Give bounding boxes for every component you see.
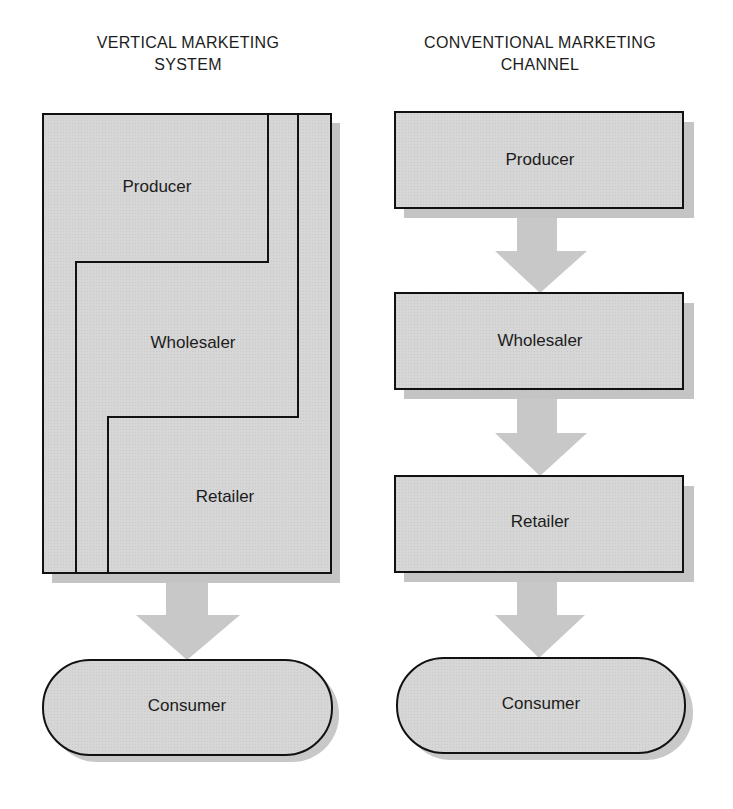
vms-consumer-label: Consumer [148,696,226,716]
vms-arrow-down-icon [136,583,240,660]
conventional-channel-group [395,112,694,760]
cmc-arrow-down-icon [495,399,587,476]
vertical-system-group [43,114,340,762]
vms-retailer-label: Retailer [196,487,255,507]
vms-wholesaler-label: Wholesaler [150,333,235,353]
cmc-producer-label: Producer [506,150,575,170]
cmc-consumer-label: Consumer [502,694,580,714]
vms-producer-label: Producer [123,177,192,197]
cmc-arrow-down-icon [495,218,587,293]
diagram-canvas [0,0,733,809]
cmc-wholesaler-label: Wholesaler [497,331,582,351]
cmc-retailer-label: Retailer [511,512,570,532]
cmc-arrow-down-icon [495,582,585,658]
